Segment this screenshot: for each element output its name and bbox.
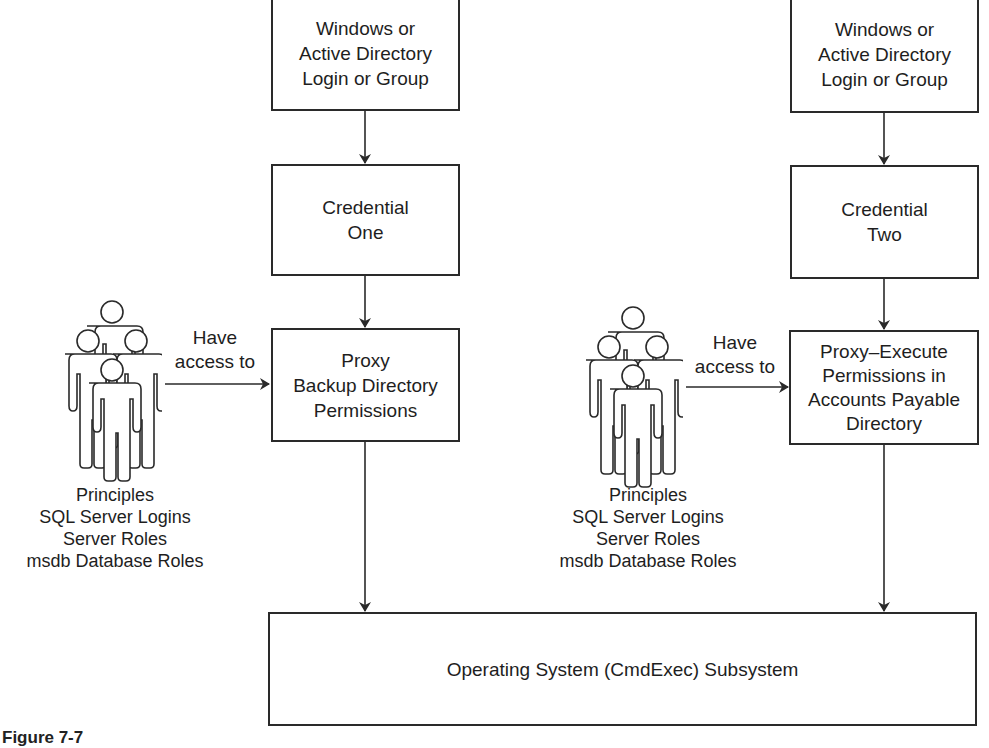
login-group-box-right: Windows or Active Directory Login or Gro… (790, 0, 979, 113)
access-label-right: Have access to (680, 331, 790, 379)
principals-label-left: Principles SQL Server Logins Server Role… (0, 484, 230, 572)
cmdexec-subsystem-box: Operating System (CmdExec) Subsystem (268, 612, 977, 726)
credential-two-label: Credential Two (841, 197, 928, 247)
people-group-icon (583, 306, 683, 488)
login-group-box-left: Windows or Active Directory Login or Gro… (271, 0, 460, 111)
login-group-label-right: Windows or Active Directory Login or Gro… (818, 17, 951, 92)
principals-label-right: Principles SQL Server Logins Server Role… (520, 484, 776, 572)
access-label-left: Have access to (160, 326, 270, 374)
credential-one-label: Credential One (322, 195, 409, 245)
proxy-backup-label: Proxy Backup Directory Permissions (293, 348, 438, 423)
credential-one-box: Credential One (271, 164, 460, 276)
proxy-execute-box: Proxy–Execute Permissions in Accounts Pa… (789, 330, 979, 445)
people-group-icon (62, 300, 162, 482)
login-group-label-left: Windows or Active Directory Login or Gro… (299, 16, 432, 91)
figure-caption: Figure 7-7 (2, 728, 83, 748)
cmdexec-subsystem-label: Operating System (CmdExec) Subsystem (447, 657, 799, 682)
proxy-execute-label: Proxy–Execute Permissions in Accounts Pa… (808, 340, 960, 436)
credential-two-box: Credential Two (790, 165, 979, 279)
proxy-backup-box: Proxy Backup Directory Permissions (271, 328, 460, 442)
